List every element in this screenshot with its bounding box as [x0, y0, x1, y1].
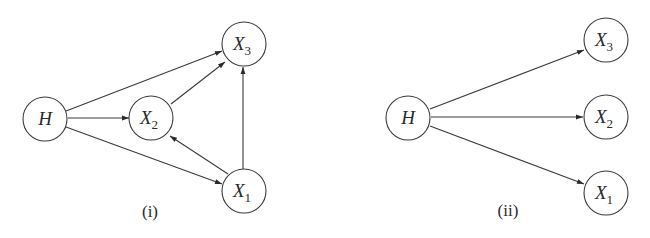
node-x3: X3 [584, 18, 628, 62]
node-h: H [386, 96, 430, 140]
node-h: H [23, 97, 67, 141]
diagram-ii: H X3 X2 X1 (ii) [386, 18, 628, 220]
node-x1: X1 [584, 171, 628, 215]
svg-text:H: H [37, 108, 53, 129]
edge-h-x1 [430, 126, 584, 184]
diagram-i: H X2 X3 X1 (i) [23, 22, 266, 221]
svg-text:H: H [400, 107, 416, 128]
caption-ii: (ii) [498, 201, 519, 220]
node-x2: X2 [129, 96, 173, 140]
node-x3: X3 [222, 22, 266, 66]
node-x2: X2 [584, 95, 628, 139]
edge-x2-x3 [171, 62, 225, 104]
caption-i: (i) [142, 202, 158, 221]
figure: H X2 X3 X1 (i) H X3 X2 [0, 0, 650, 238]
node-x1: X1 [222, 169, 266, 213]
edge-h-x3 [430, 50, 584, 109]
